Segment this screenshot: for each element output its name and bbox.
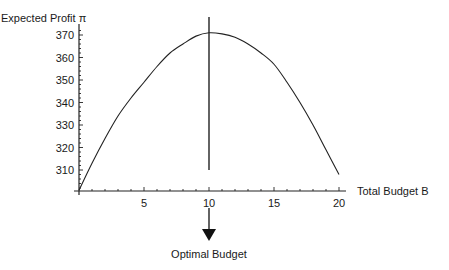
y-tick-label: 320 [56, 142, 74, 154]
x-tick-label: 20 [333, 197, 345, 209]
x-tick-label: 10 [203, 197, 215, 209]
x-ticks: 5101520 [92, 187, 345, 209]
y-tick-label: 340 [56, 97, 74, 109]
y-tick-label: 350 [56, 74, 74, 86]
x-axis-label: Total Budget B [357, 185, 429, 197]
x-tick-label: 15 [268, 197, 280, 209]
optimal-budget-label: Optimal Budget [171, 248, 247, 260]
y-tick-label: 330 [56, 119, 74, 131]
y-axis-label: Expected Profit π [1, 12, 87, 24]
profit-chart: Expected Profit π Total Budget B 3103203… [0, 0, 449, 270]
y-tick-label: 360 [56, 52, 74, 64]
y-tick-label: 310 [56, 164, 74, 176]
arrow-down-icon [202, 229, 216, 241]
y-tick-label: 370 [56, 29, 74, 41]
x-tick-label: 5 [141, 197, 147, 209]
